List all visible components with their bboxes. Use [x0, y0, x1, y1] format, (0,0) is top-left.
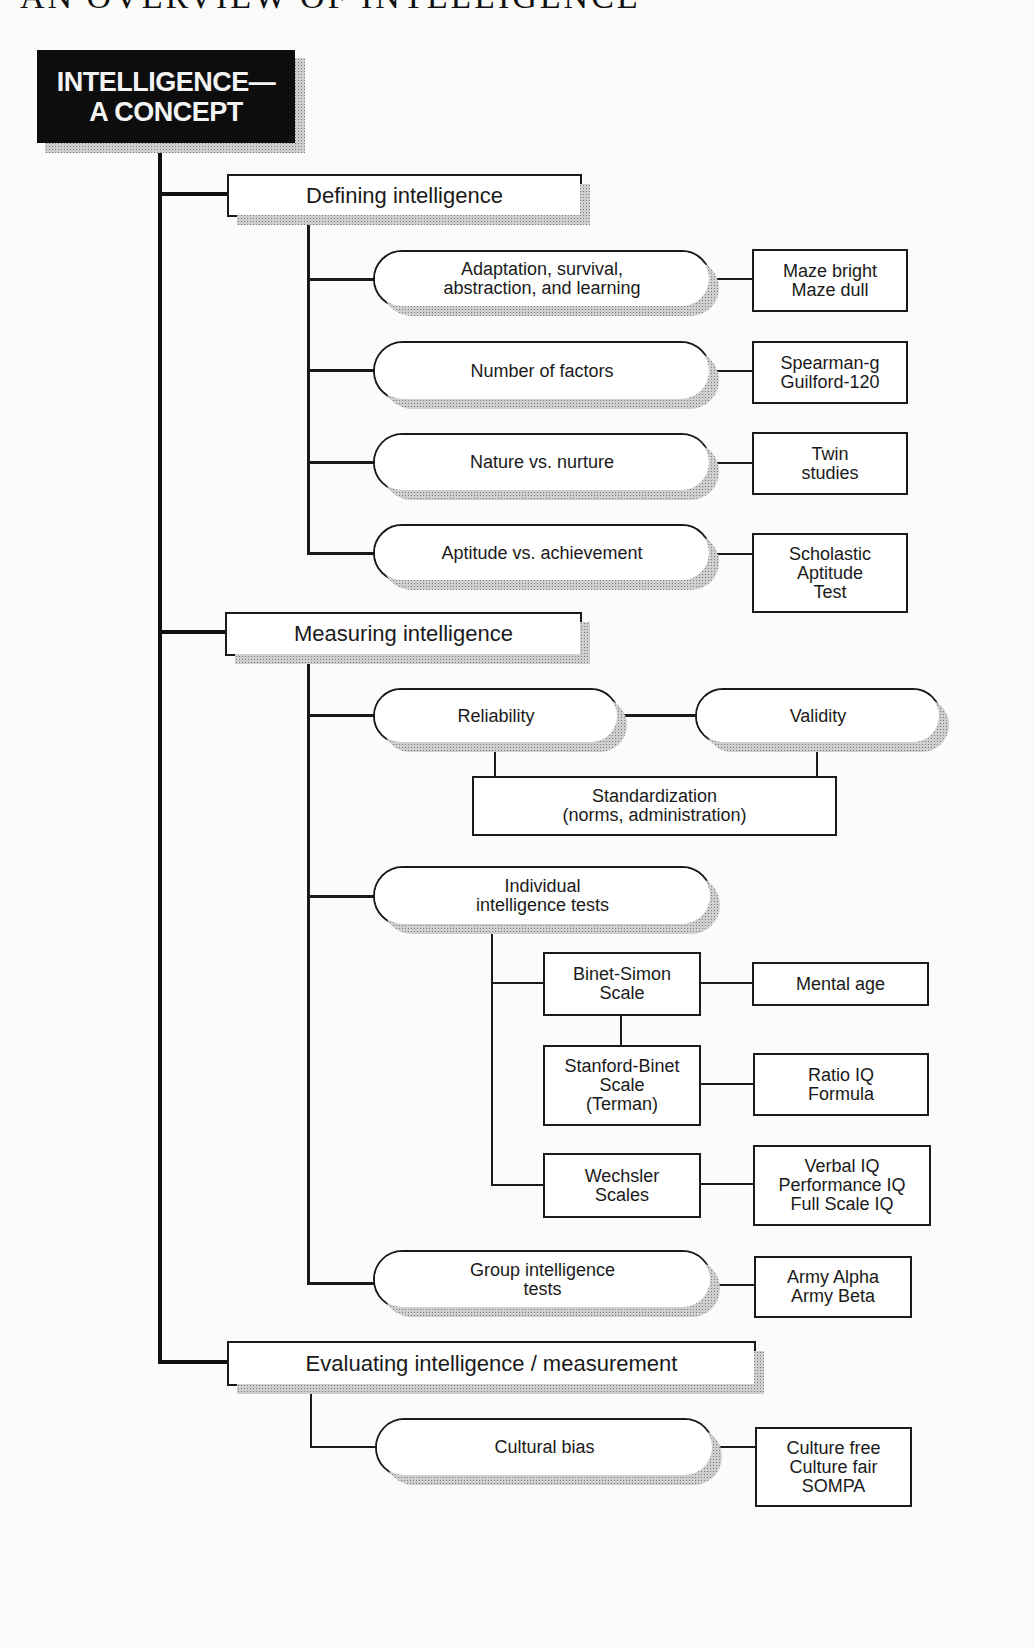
scale-label: Wechsler Scales: [585, 1167, 660, 1205]
connector: [701, 982, 753, 984]
detail-label: Mental age: [796, 975, 885, 994]
detail-standardization: Standardization (norms, administration): [472, 776, 837, 836]
topic-label: Reliability: [457, 707, 534, 726]
topic-aptitude-vs-achievement: Aptitude vs. achievement: [373, 524, 711, 582]
connector: [701, 1183, 754, 1185]
connector: [701, 1083, 754, 1085]
detail-label: Ratio IQ Formula: [808, 1066, 874, 1104]
connector: [491, 1184, 544, 1186]
topic-label: Adaptation, survival, abstraction, and l…: [443, 260, 640, 298]
detail-ratio-iq: Ratio IQ Formula: [753, 1053, 929, 1116]
section-label: Defining intelligence: [306, 186, 503, 206]
section-measuring-intelligence: Measuring intelligence: [225, 612, 582, 656]
topic-label: Number of factors: [470, 362, 613, 381]
topic-validity: Validity: [695, 688, 941, 744]
connector: [307, 1282, 375, 1285]
topic-cultural-bias: Cultural bias: [375, 1418, 714, 1477]
connector-binet-stanford: [620, 1016, 622, 1046]
detail-label: Twin studies: [801, 445, 858, 483]
section-label: Measuring intelligence: [294, 624, 513, 644]
topic-label: Validity: [790, 707, 847, 726]
scale-stanford-binet: Stanford-Binet Scale (Terman): [543, 1045, 701, 1126]
individual-subtrunk: [491, 926, 493, 1186]
connector: [307, 369, 375, 372]
topic-label: Aptitude vs. achievement: [441, 544, 642, 563]
detail-mental-age: Mental age: [752, 962, 929, 1006]
section-label: Evaluating intelligence / measurement: [306, 1354, 678, 1374]
section-defining-intelligence: Defining intelligence: [227, 174, 582, 217]
detail-wechsler-iq-scores: Verbal IQ Performance IQ Full Scale IQ: [753, 1145, 931, 1226]
root-label: INTELLIGENCE— A CONCEPT: [57, 67, 276, 127]
scale-label: Binet-Simon Scale: [573, 965, 671, 1003]
detail-twin-studies: Twin studies: [752, 432, 908, 495]
connector: [307, 552, 375, 555]
connector: [307, 278, 375, 281]
topic-label: Cultural bias: [494, 1438, 594, 1457]
topic-group-intelligence-tests: Group intelligence tests: [373, 1250, 712, 1309]
topic-nature-vs-nurture: Nature vs. nurture: [373, 433, 711, 492]
detail-label: Standardization (norms, administration): [562, 787, 746, 825]
detail-label: Verbal IQ Performance IQ Full Scale IQ: [778, 1157, 905, 1214]
detail-label: Spearman-g Guilford-120: [780, 354, 879, 392]
topic-label: Group intelligence tests: [470, 1261, 615, 1299]
detail-maze: Maze bright Maze dull: [752, 249, 908, 312]
defining-subtrunk: [307, 217, 310, 555]
scale-binet-simon: Binet-Simon Scale: [543, 952, 701, 1016]
topic-label: Nature vs. nurture: [470, 453, 614, 472]
scale-label: Stanford-Binet Scale (Terman): [564, 1057, 679, 1114]
topic-number-of-factors: Number of factors: [373, 341, 711, 401]
detail-label: Army Alpha Army Beta: [787, 1268, 879, 1306]
evaluating-subtrunk: [310, 1386, 312, 1448]
scale-wechsler: Wechsler Scales: [543, 1153, 701, 1218]
connector: [307, 714, 375, 717]
detail-army-alpha-beta: Army Alpha Army Beta: [754, 1256, 912, 1318]
connector: [310, 1446, 377, 1448]
topic-individual-intelligence-tests: Individual intelligence tests: [373, 866, 712, 926]
topic-label: Individual intelligence tests: [476, 877, 609, 915]
page-title: AN OVERVIEW OF INTELLIGENCE: [20, 0, 641, 16]
detail-spearman-guilford: Spearman-g Guilford-120: [752, 341, 908, 404]
branch-evaluating: [158, 1360, 228, 1364]
connector: [307, 461, 375, 464]
detail-scholastic-aptitude-test: Scholastic Aptitude Test: [752, 533, 908, 613]
detail-culture-free-fair-sompa: Culture free Culture fair SOMPA: [755, 1427, 912, 1507]
branch-defining: [158, 192, 228, 196]
main-trunk-line: [158, 143, 162, 1364]
connector: [307, 895, 375, 898]
topic-adaptation: Adaptation, survival, abstraction, and l…: [373, 250, 711, 308]
topic-reliability: Reliability: [373, 688, 619, 744]
detail-label: Scholastic Aptitude Test: [789, 545, 871, 602]
branch-measuring: [158, 630, 226, 634]
connector: [491, 982, 544, 984]
detail-label: Maze bright Maze dull: [783, 262, 877, 300]
section-evaluating-intelligence: Evaluating intelligence / measurement: [227, 1341, 756, 1386]
root-concept-box: INTELLIGENCE— A CONCEPT: [37, 50, 295, 143]
connector-reliability-validity: [619, 714, 696, 717]
measuring-subtrunk: [307, 656, 310, 1285]
detail-label: Culture free Culture fair SOMPA: [786, 1439, 880, 1496]
